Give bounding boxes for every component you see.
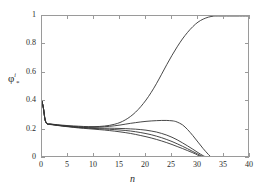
data-curve — [42, 101, 249, 157]
x-tick-label: 30 — [185, 160, 209, 169]
y-tick-label: 0 — [2, 152, 36, 161]
y-tick-label: 1 — [2, 10, 36, 19]
y-tick-mark — [41, 72, 45, 73]
x-tick-mark — [249, 15, 250, 19]
y-tick-mark — [245, 43, 249, 44]
x-tick-mark — [93, 153, 94, 157]
x-tick-label: 25 — [159, 160, 183, 169]
x-tick-label: 5 — [55, 160, 79, 169]
x-tick-mark — [119, 15, 120, 19]
y-tick-mark — [41, 157, 45, 158]
x-tick-mark — [197, 15, 198, 19]
plot-area — [41, 15, 249, 157]
chart-figure: φi* n 051015202530354000.20.40.60.81 — [0, 0, 265, 192]
x-tick-mark — [119, 153, 120, 157]
x-tick-mark — [171, 15, 172, 19]
x-tick-mark — [223, 153, 224, 157]
y-axis-title-subscript: * — [16, 79, 20, 87]
y-tick-mark — [245, 157, 249, 158]
x-tick-mark — [197, 153, 198, 157]
x-tick-label: 10 — [81, 160, 105, 169]
y-tick-mark — [41, 129, 45, 130]
y-tick-mark — [245, 129, 249, 130]
x-tick-mark — [145, 15, 146, 19]
y-tick-mark — [41, 43, 45, 44]
y-tick-label: 0.8 — [2, 38, 36, 47]
x-tick-mark — [67, 153, 68, 157]
y-tick-mark — [245, 100, 249, 101]
x-tick-mark — [249, 153, 250, 157]
x-tick-mark — [93, 15, 94, 19]
data-curve — [42, 16, 249, 127]
x-tick-label: 0 — [29, 160, 53, 169]
x-tick-mark — [67, 15, 68, 19]
data-curve — [42, 101, 249, 157]
y-tick-mark — [41, 15, 45, 16]
x-tick-label: 20 — [133, 160, 157, 169]
x-axis-title: n — [0, 173, 265, 184]
x-tick-mark — [171, 153, 172, 157]
x-tick-mark — [223, 15, 224, 19]
data-curve — [42, 101, 249, 157]
y-tick-label: 0.2 — [2, 124, 36, 133]
x-tick-label: 40 — [237, 160, 261, 169]
y-tick-mark — [245, 72, 249, 73]
y-tick-label: 0.6 — [2, 67, 36, 76]
y-tick-label: 0.4 — [2, 95, 36, 104]
y-tick-mark — [41, 100, 45, 101]
y-tick-mark — [245, 15, 249, 16]
x-tick-mark — [145, 153, 146, 157]
x-tick-label: 15 — [107, 160, 131, 169]
x-tick-label: 35 — [211, 160, 235, 169]
curves-svg — [42, 16, 249, 157]
data-curve — [42, 101, 249, 157]
